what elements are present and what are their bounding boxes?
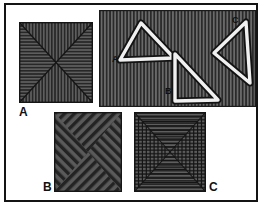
figure-root: A — [0, 0, 264, 208]
label-triangle-a: A — [112, 55, 119, 64]
panel-b-square — [54, 112, 122, 192]
label-panel-a: A — [19, 106, 28, 118]
label-panel-c: C — [209, 181, 218, 193]
label-panel-b: B — [43, 181, 52, 193]
panel-a-square — [19, 22, 93, 103]
panel-a-drawing — [19, 22, 93, 103]
panel-c-square — [134, 112, 206, 192]
figure-frame: A — [4, 3, 258, 202]
label-triangle-b: B — [165, 87, 172, 96]
panel-c-drawing — [134, 112, 206, 192]
panel-b-drawing — [54, 112, 122, 192]
label-triangle-c: C — [232, 16, 239, 25]
